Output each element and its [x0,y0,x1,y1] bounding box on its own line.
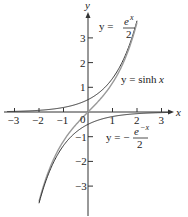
origin-label: 0 [80,113,86,125]
svg-text:2: 2 [137,138,143,150]
y-tick-label: −3 [75,180,87,192]
y-tick-label: 1 [80,81,86,93]
y-axis-arrow-icon [86,12,91,18]
svg-text:e: e [124,15,129,27]
y-tick-label: 2 [80,57,86,69]
axes [4,12,174,216]
label-sinh: y = sinh x [121,73,164,85]
svg-text:y = sinh: y = sinh [121,73,157,85]
svg-text:−x: −x [140,123,149,132]
y-axis-label: y [84,0,90,11]
svg-text:x: x [158,73,164,85]
svg-text:e: e [134,125,139,137]
x-tick-label: −3 [8,114,20,126]
x-tick-label: −1 [57,114,69,126]
x-tick-label: −2 [32,114,44,126]
curve-expx [7,21,137,112]
svg-text:y = −: y = − [106,131,129,143]
svg-text:2: 2 [126,28,132,40]
x-axis-arrow-icon [168,110,174,115]
svg-text:y =: y = [99,20,113,32]
x-axis-label: x [175,106,181,118]
y-tick-label: −1 [75,131,87,143]
y-tick-label: −2 [75,155,87,167]
label-exp-half: y = e x 2 [99,13,135,40]
svg-text:x: x [129,13,134,22]
label-neg-exp-half: y = − e −x 2 [106,123,149,150]
y-tick-label: 3 [80,32,86,44]
curve-expx [39,112,169,203]
x-tick-label: 3 [159,114,165,126]
plot-area: −3−2−1123321−1−2−3 x y 0 y = e x 2 y = s… [0,0,188,217]
sinh-graph: −3−2−1123321−1−2−3 x y 0 y = e x 2 y = s… [0,0,188,217]
